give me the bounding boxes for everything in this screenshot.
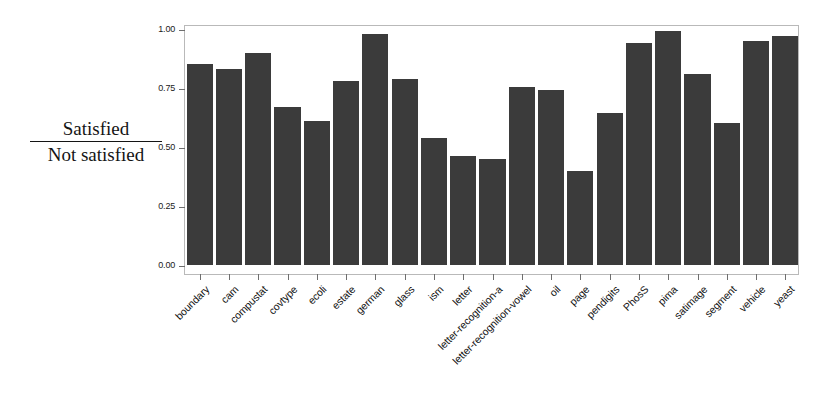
x-axis-tick-label: glass	[391, 283, 416, 308]
x-axis-tick-mark	[463, 274, 464, 280]
x-axis-tick-label: vehicle	[736, 283, 767, 314]
bar	[216, 69, 242, 265]
x-axis-tick-label: page	[567, 283, 592, 308]
y-axis-tick-mark	[179, 266, 185, 267]
x-axis-tick-mark	[610, 274, 611, 280]
bar	[304, 121, 330, 265]
plot-frame: 0.000.250.500.751.00	[184, 25, 799, 275]
y-axis-tick-mark	[179, 30, 185, 31]
y-axis-tick-mark	[179, 207, 185, 208]
x-axis-tick-mark	[727, 274, 728, 280]
bar	[714, 123, 740, 265]
x-axis-tick-mark	[698, 274, 699, 280]
y-axis-tick-label: 0.50	[158, 142, 175, 152]
x-axis-tick-mark	[756, 274, 757, 280]
x-axis-tick-labels: boundarycamcompustatcovtypeecoliestatege…	[184, 283, 799, 418]
x-axis-tick-mark	[522, 274, 523, 280]
bar	[567, 171, 593, 265]
x-axis-tick-mark	[200, 274, 201, 280]
x-axis-tick-label: ism	[426, 283, 446, 303]
y-axis-tick-label: 1.00	[158, 24, 175, 34]
y-axis-label: Satisfied Not satisfied	[30, 118, 162, 166]
bar	[187, 64, 213, 265]
fraction-rule	[30, 141, 162, 142]
bar	[245, 53, 271, 265]
x-axis-tick-mark	[580, 274, 581, 280]
bar	[772, 36, 798, 265]
x-axis-tick-mark	[288, 274, 289, 280]
y-axis-label-numerator: Satisfied	[30, 118, 162, 140]
x-axis-tick-label: boundary	[172, 283, 211, 322]
y-axis-tick-label: 0.00	[158, 260, 175, 270]
bar	[362, 34, 388, 265]
bar	[743, 41, 769, 265]
bar	[509, 87, 535, 265]
x-axis-tick-label: pima	[655, 283, 679, 307]
x-axis-tick-mark	[434, 274, 435, 280]
y-axis-label-denominator: Not satisfied	[30, 144, 162, 165]
x-axis-tick-label: PhosS	[620, 283, 650, 313]
x-axis-tick-mark	[551, 274, 552, 280]
x-axis-tick-mark	[375, 274, 376, 280]
bar	[274, 107, 300, 265]
x-axis-tick-mark	[405, 274, 406, 280]
bar	[684, 74, 710, 265]
x-axis-tick-mark	[785, 274, 786, 280]
y-axis-tick-label: 0.25	[158, 201, 175, 211]
bar	[597, 113, 623, 265]
bar	[421, 138, 447, 265]
bar	[392, 79, 418, 265]
x-axis-tick-mark	[258, 274, 259, 280]
y-axis-tick-mark	[179, 148, 185, 149]
bar	[479, 159, 505, 265]
plot-area: 0.000.250.500.751.00	[185, 26, 798, 274]
x-axis-tick-label: letter	[450, 283, 475, 308]
x-axis-tick-mark	[668, 274, 669, 280]
x-axis-tick-label: oil	[547, 283, 563, 299]
bar-chart-figure: Satisfied Not satisfied 0.000.250.500.75…	[0, 0, 820, 418]
x-axis-tick-label: yeast	[771, 283, 797, 309]
y-axis-tick-label: 0.75	[158, 83, 175, 93]
bar	[626, 43, 652, 265]
bar	[655, 31, 681, 265]
x-axis-tick-label: cam	[218, 283, 240, 305]
bar	[450, 156, 476, 265]
x-axis-tick-mark	[639, 274, 640, 280]
x-axis-tick-mark	[229, 274, 230, 280]
x-axis-tick-label: covtype	[265, 283, 299, 317]
x-axis-tick-label: german	[354, 283, 387, 316]
y-axis-tick-mark	[179, 89, 185, 90]
x-axis-tick-mark	[346, 274, 347, 280]
x-axis-tick-mark	[493, 274, 494, 280]
bar	[538, 90, 564, 265]
bar	[333, 81, 359, 265]
x-axis-tick-mark	[317, 274, 318, 280]
x-axis-tick-label: ecoli	[305, 283, 328, 306]
